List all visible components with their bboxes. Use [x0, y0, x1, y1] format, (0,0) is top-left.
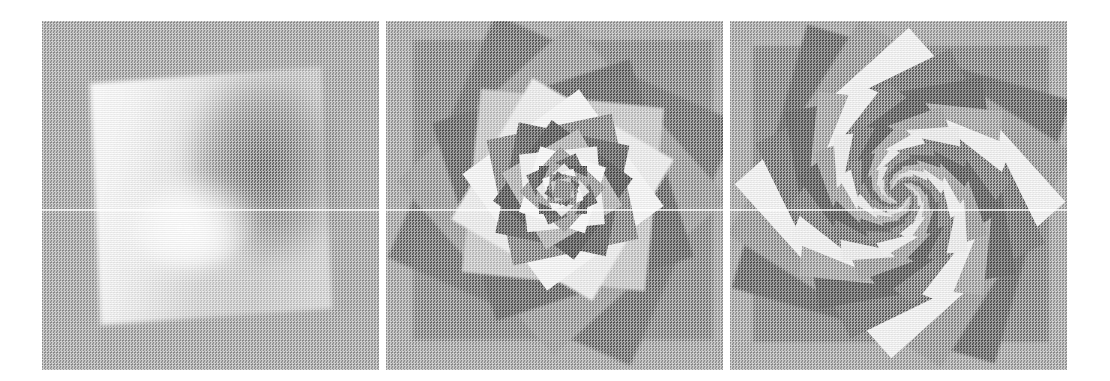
panel-3 — [730, 21, 1067, 370]
panel-strip — [42, 21, 1068, 370]
panel-2-stage — [386, 21, 723, 370]
spiral-square-23 — [552, 179, 573, 200]
panel-3-stage — [730, 21, 1067, 370]
figure-root — [0, 0, 1110, 381]
panel-2 — [386, 21, 723, 370]
panel-1 — [42, 21, 379, 370]
panel-1-stage — [42, 21, 379, 370]
